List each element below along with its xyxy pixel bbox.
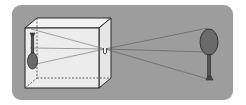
object-stem — [208, 55, 211, 77]
camera-box-top-face — [25, 18, 111, 28]
object-head — [200, 29, 218, 55]
pinhole — [104, 48, 107, 54]
pinhole-camera-diagram — [0, 0, 246, 105]
inverted-image-stem — [31, 35, 34, 53]
inverted-image-head — [28, 53, 38, 69]
